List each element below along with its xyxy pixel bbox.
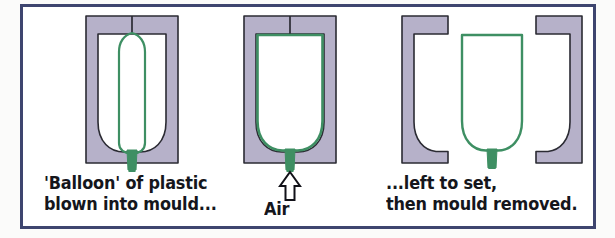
mould-half-right [536, 16, 582, 163]
panel-2-air-blown [244, 16, 336, 200]
air-label: Air [264, 199, 289, 220]
mould-half-left [402, 16, 448, 163]
panel-1-balloon-in-mould [86, 16, 178, 172]
blow-moulding-figure: 'Balloon' of plastic blown into mould...… [0, 0, 615, 238]
caption-panel-3-line-1: ...left to set, [386, 173, 577, 194]
caption-panel-1: 'Balloon' of plastic blown into mould... [44, 173, 217, 215]
panel-3-mould-removed [402, 16, 582, 169]
mould-cavity-panel-2 [256, 34, 324, 152]
plastic-stem-tip-panel-3 [489, 160, 496, 169]
caption-panel-1-line-1: 'Balloon' of plastic [44, 173, 217, 194]
caption-panel-2: Air [264, 199, 289, 220]
caption-panel-3: ...left to set, then mould removed. [386, 173, 577, 215]
air-arrow-icon [280, 172, 300, 200]
caption-panel-3-line-2: then mould removed. [386, 194, 577, 215]
mould-cavity-panel-1 [98, 34, 166, 152]
finished-bottle-panel-3 [462, 35, 522, 151]
caption-panel-1-line-2: blown into mould... [44, 194, 217, 215]
plastic-stem-tip-panel-1 [129, 162, 136, 172]
